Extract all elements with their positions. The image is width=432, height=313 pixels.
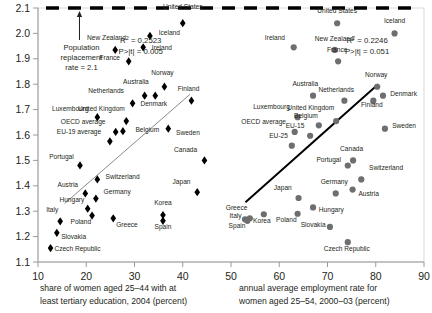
y-axis-tick-label: 1.5 xyxy=(15,154,30,166)
data-point-label: Korea xyxy=(154,199,172,206)
y-axis-tick-label: 1.7 xyxy=(15,103,30,115)
data-point-marker xyxy=(142,92,148,100)
x-axis-tick-label: 60 xyxy=(273,270,285,282)
data-point-marker xyxy=(289,143,295,149)
data-point-label: Canada xyxy=(340,145,363,152)
data-point-label: Czech Republic xyxy=(54,245,101,253)
data-point-label: Italy xyxy=(230,212,243,220)
data-point-marker xyxy=(349,187,355,193)
y-axis-tick-label: 1.6 xyxy=(15,129,30,141)
data-point-marker xyxy=(333,118,339,124)
data-point-label: Ireland xyxy=(265,34,285,41)
data-point-marker xyxy=(48,244,54,252)
data-point-marker xyxy=(345,162,351,168)
data-point-label: Germany xyxy=(321,178,349,186)
data-point-marker xyxy=(152,92,158,100)
data-point-marker xyxy=(380,93,386,99)
y-axis-tick-label: 1.4 xyxy=(15,179,30,191)
data-point-label: United States xyxy=(163,3,203,10)
data-point-label: Canada xyxy=(174,146,197,153)
reference-annotation-line1: Population xyxy=(64,43,100,52)
data-point-label: Greece xyxy=(226,204,248,211)
x-axis-tick-label: 90 xyxy=(418,270,430,282)
data-point-label: Austria xyxy=(358,190,379,197)
chart-canvas: 1.11.21.31.41.51.61.71.81.92.02.11020304… xyxy=(0,0,432,313)
x-axis-tick-label: 30 xyxy=(129,270,141,282)
data-point-label: Austria xyxy=(58,181,79,188)
x-axis-tick-label: 40 xyxy=(177,270,189,282)
data-point-marker xyxy=(57,217,63,225)
y-axis-tick-label: 1.8 xyxy=(15,78,30,90)
data-point-label: Belgium xyxy=(294,112,318,120)
data-point-marker xyxy=(295,195,301,201)
data-point-marker xyxy=(180,19,186,27)
data-point-marker xyxy=(202,156,208,164)
data-point-marker xyxy=(316,122,322,128)
x-axis-title-left-line2: least tertiary education, 2004 (percent) xyxy=(40,296,187,306)
data-point-label: Germany xyxy=(104,188,132,196)
data-point-label: EU-25 xyxy=(269,132,288,139)
data-point-label: Greece xyxy=(116,221,138,228)
data-point-label: Sweden xyxy=(176,129,200,136)
data-point-marker xyxy=(341,98,347,104)
data-point-label: United States xyxy=(317,7,357,14)
data-point-marker xyxy=(310,204,316,210)
data-point-marker xyxy=(113,128,119,136)
data-point-marker xyxy=(194,188,200,196)
data-point-marker xyxy=(391,30,397,36)
data-point-marker xyxy=(54,229,60,237)
p-value-stat-0: P>|t| = 0.005 xyxy=(119,47,164,56)
data-point-label: Switzerland xyxy=(369,164,403,171)
data-point-marker xyxy=(310,93,316,99)
data-point-label: Sweden xyxy=(392,122,416,129)
x-axis-tick-label: 80 xyxy=(370,270,382,282)
data-point-label: Australia xyxy=(292,80,318,87)
data-point-label: Denmark xyxy=(140,100,167,107)
data-point-label: United Kingdom xyxy=(78,105,125,113)
data-point-marker xyxy=(107,137,113,145)
data-point-label: Czech Republic xyxy=(324,245,371,253)
y-axis-tick-label: 2.1 xyxy=(15,2,30,14)
data-point-label: Spain xyxy=(155,223,172,231)
data-point-label: Netherlands xyxy=(318,86,354,93)
y-axis-tick-label: 1.1 xyxy=(15,256,30,268)
data-point-label: Australia xyxy=(123,78,149,85)
data-point-label: Hungary xyxy=(319,206,345,214)
reference-annotation-line3: rate = 2.1 xyxy=(65,63,97,72)
data-point-marker xyxy=(335,58,341,64)
reference-annotation-arrowhead xyxy=(77,11,82,17)
data-point-marker xyxy=(77,161,83,169)
data-point-marker xyxy=(85,205,91,213)
reference-annotation-line2: replacement xyxy=(61,53,104,62)
x-axis-tick-label: 20 xyxy=(80,270,92,282)
x-axis-tick-label: 70 xyxy=(322,270,334,282)
data-point-marker xyxy=(334,20,340,26)
data-point-marker xyxy=(120,127,126,135)
data-point-label: Finland xyxy=(361,101,383,108)
data-point-marker xyxy=(382,126,388,132)
y-axis-tick-label: 1.2 xyxy=(15,230,30,242)
p-value-stat-1: P>|t| = 0.051 xyxy=(345,47,389,56)
data-point-label: Iceland xyxy=(159,29,181,36)
data-point-label: Hungary xyxy=(59,196,85,204)
data-point-marker xyxy=(327,224,333,230)
data-point-marker xyxy=(307,133,313,139)
data-point-label: Denmark xyxy=(390,90,417,97)
data-point-marker xyxy=(162,83,168,91)
data-point-marker xyxy=(333,190,339,196)
x-axis-title-right-line2: women aged 25–54, 2000–03 (percent) xyxy=(238,296,390,306)
data-point-label: EU-15 xyxy=(286,122,305,129)
y-axis-tick-label: 2.0 xyxy=(15,27,30,39)
data-point-label: Spain xyxy=(229,222,246,230)
data-point-label: Belgium xyxy=(135,126,159,134)
data-point-marker xyxy=(112,46,118,54)
data-point-marker xyxy=(292,129,298,135)
data-point-label: Slovakia xyxy=(301,221,326,228)
data-point-label: Portugal xyxy=(49,153,74,161)
x-axis-tick-label: 10 xyxy=(32,270,44,282)
data-point-label: Japan xyxy=(274,184,292,192)
data-point-marker xyxy=(123,117,129,125)
fertility-scatter-figure: 1.11.21.31.41.51.61.71.81.92.02.11020304… xyxy=(0,0,432,313)
data-point-label: Norway xyxy=(365,71,388,79)
data-point-marker xyxy=(374,84,380,90)
